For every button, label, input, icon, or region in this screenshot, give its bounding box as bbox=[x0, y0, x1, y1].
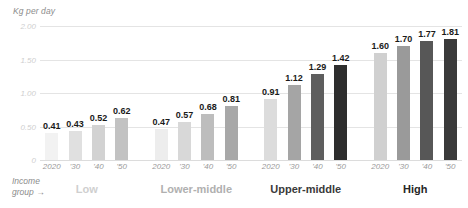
bar[interactable] bbox=[334, 65, 347, 160]
bar[interactable] bbox=[225, 106, 238, 160]
bar[interactable] bbox=[115, 118, 128, 160]
plot-area: 00.501.001.502.00 0.410.430.520.620.470.… bbox=[40, 26, 462, 160]
bar-slot: 1.12 bbox=[288, 26, 301, 160]
x-axis-tick-label: 2020 bbox=[43, 162, 61, 171]
bar-slot: 0.57 bbox=[178, 26, 191, 160]
bar-slot: 0.52 bbox=[92, 26, 105, 160]
bar-value-label: 0.52 bbox=[90, 113, 108, 123]
bar[interactable] bbox=[374, 53, 387, 160]
x-axis-tick-label: 2020 bbox=[152, 162, 170, 171]
bar[interactable] bbox=[45, 133, 58, 160]
bar-slot: 1.70 bbox=[397, 26, 410, 160]
y-axis-tick-label: 0 bbox=[32, 156, 36, 165]
bar-slot: 0.62 bbox=[115, 26, 128, 160]
x-axis-tick-label: '50 bbox=[336, 162, 346, 171]
income-group-caption: Income group → bbox=[12, 176, 44, 198]
bar-value-label: 0.68 bbox=[199, 102, 217, 112]
bar-group: 0.410.430.520.62 bbox=[40, 26, 134, 160]
x-axis-tick-labels: 2020'30'40'502020'30'40'502020'30'40'502… bbox=[40, 162, 462, 176]
y-axis-tick-label: 1.00 bbox=[20, 89, 36, 98]
bar[interactable] bbox=[311, 74, 324, 160]
gridline bbox=[40, 160, 462, 161]
bar-slot: 1.77 bbox=[420, 26, 433, 160]
bar-value-label: 0.41 bbox=[43, 121, 61, 131]
x-axis-tick-label: '40 bbox=[93, 162, 103, 171]
bar-value-label: 0.43 bbox=[66, 119, 84, 129]
bar-value-label: 1.70 bbox=[395, 34, 413, 44]
bar[interactable] bbox=[397, 46, 410, 160]
bar[interactable] bbox=[420, 41, 433, 160]
bar-value-label: 1.42 bbox=[332, 53, 350, 63]
bar[interactable] bbox=[444, 39, 457, 160]
income-group-line1: Income bbox=[12, 176, 40, 186]
bar-group: 0.911.121.291.42 bbox=[259, 26, 353, 160]
bar-slot: 0.68 bbox=[201, 26, 214, 160]
bar-value-label: 0.57 bbox=[176, 110, 194, 120]
bar[interactable] bbox=[92, 125, 105, 160]
x-axis-tick-label: '30 bbox=[289, 162, 299, 171]
group-label-low: Low bbox=[76, 183, 98, 195]
bar-value-label: 1.12 bbox=[285, 73, 303, 83]
x-axis-tick-label: '50 bbox=[226, 162, 236, 171]
bar-slot: 0.91 bbox=[264, 26, 277, 160]
bar-value-label: 0.91 bbox=[262, 87, 280, 97]
y-axis-title: Kg per day bbox=[13, 6, 55, 16]
bar-slot: 1.60 bbox=[374, 26, 387, 160]
bar[interactable] bbox=[288, 85, 301, 160]
bar-value-label: 1.29 bbox=[309, 62, 327, 72]
bar-group: 0.470.570.680.81 bbox=[150, 26, 244, 160]
income-group-line2: group bbox=[12, 187, 34, 197]
bar-value-label: 0.47 bbox=[152, 117, 170, 127]
bar-slot: 1.29 bbox=[311, 26, 324, 160]
bar-value-label: 0.81 bbox=[223, 94, 241, 104]
bar[interactable] bbox=[69, 131, 82, 160]
bar-chart: Kg per day 00.501.001.502.00 0.410.430.5… bbox=[0, 0, 468, 208]
x-axis-tick-label: 2020 bbox=[371, 162, 389, 171]
x-axis-tick-label: 2020 bbox=[262, 162, 280, 171]
bar-value-label: 1.60 bbox=[371, 41, 389, 51]
bar-value-label: 1.77 bbox=[418, 29, 436, 39]
x-axis-tick-label: '30 bbox=[70, 162, 80, 171]
arrow-icon: → bbox=[36, 187, 44, 197]
y-axis-tick-label: 2.00 bbox=[20, 22, 36, 31]
bar[interactable] bbox=[178, 122, 191, 160]
group-label-high: High bbox=[403, 183, 427, 195]
bar[interactable] bbox=[155, 129, 168, 160]
bar-group: 1.601.701.771.81 bbox=[369, 26, 463, 160]
x-axis-tick-label: '30 bbox=[179, 162, 189, 171]
x-axis-tick-label: '30 bbox=[398, 162, 408, 171]
x-axis-tick-label: '50 bbox=[445, 162, 455, 171]
bars-layer: 0.410.430.520.620.470.570.680.810.911.12… bbox=[40, 26, 462, 160]
group-label-lower-middle: Lower-middle bbox=[160, 183, 232, 195]
bar-value-label: 0.62 bbox=[113, 106, 131, 116]
bar-slot: 1.81 bbox=[444, 26, 457, 160]
bar-slot: 0.47 bbox=[155, 26, 168, 160]
x-axis-tick-label: '40 bbox=[203, 162, 213, 171]
bar[interactable] bbox=[264, 99, 277, 160]
bar-slot: 0.41 bbox=[45, 26, 58, 160]
bar[interactable] bbox=[201, 114, 214, 160]
group-label-upper-middle: Upper-middle bbox=[270, 183, 341, 195]
bar-value-label: 1.81 bbox=[442, 27, 460, 37]
bar-slot: 0.81 bbox=[225, 26, 238, 160]
x-axis-tick-label: '40 bbox=[312, 162, 322, 171]
group-labels: LowLower-middleUpper-middleHigh bbox=[40, 183, 462, 201]
y-axis-tick-label: 0.50 bbox=[20, 122, 36, 131]
bar-slot: 0.43 bbox=[69, 26, 82, 160]
y-axis-tick-label: 1.50 bbox=[20, 55, 36, 64]
x-axis-tick-label: '50 bbox=[117, 162, 127, 171]
bar-slot: 1.42 bbox=[334, 26, 347, 160]
x-axis-tick-label: '40 bbox=[422, 162, 432, 171]
